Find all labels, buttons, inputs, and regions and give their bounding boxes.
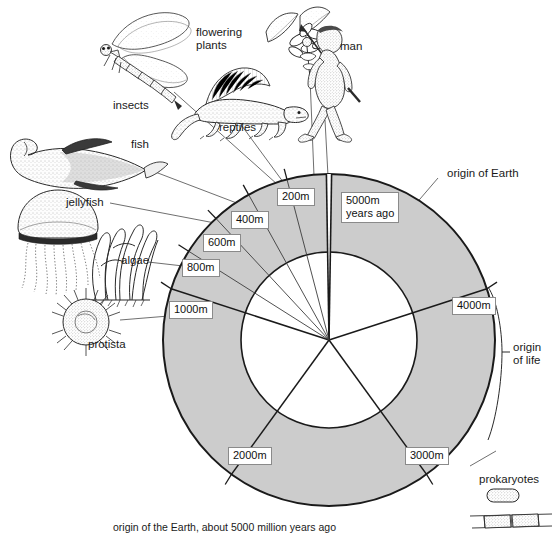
top-notch xyxy=(326,174,331,340)
label-fish: fish xyxy=(131,138,149,151)
label-prokaryotes: prokaryotes xyxy=(479,473,539,486)
ring-label-200m: 200m xyxy=(277,188,315,206)
ring-label-400m: 400m xyxy=(231,211,269,229)
label-insects: insects xyxy=(113,99,149,112)
time-ring-layer xyxy=(0,0,559,533)
label-flowering-plants: flowering plants xyxy=(196,26,242,52)
label-jellyfish: jellyfish xyxy=(66,196,104,209)
annotation-origin-of-life: origin of life xyxy=(513,341,541,367)
ring-label-3000m: 3000m xyxy=(405,447,449,465)
ring-label-600m: 600m xyxy=(203,234,241,252)
label-reptiles: reptiles xyxy=(219,121,256,134)
ring-label-1000m: 1000m xyxy=(169,301,213,319)
ring-label-4000m: 4000m xyxy=(452,297,496,315)
label-protista: protista xyxy=(88,338,126,351)
label-algae: algae xyxy=(121,254,149,267)
geological-clock-figure: 5000m years ago 4000m 3000m 2000m 1000m … xyxy=(0,0,559,533)
ring-label-2000m: 2000m xyxy=(228,447,272,465)
annotation-origin-of-earth: origin of Earth xyxy=(447,167,519,180)
ring-label-800m: 800m xyxy=(182,259,220,277)
ring-label-5000m: 5000m years ago xyxy=(341,192,399,223)
figure-caption: origin of the Earth, about 5000 million … xyxy=(113,521,336,533)
label-man: man xyxy=(340,40,362,53)
